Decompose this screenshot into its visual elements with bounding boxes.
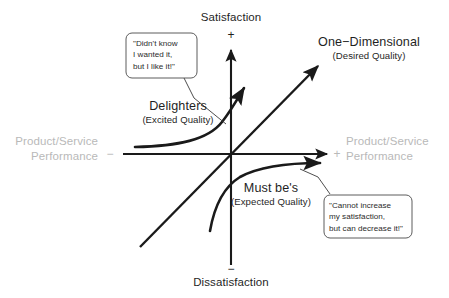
axis-label-performance-left-line1: Product/Service <box>15 135 98 147</box>
category-subtitle-delighters: (Excited Quality) <box>123 114 233 126</box>
one-dimensional-curve <box>140 66 318 247</box>
axis-sign-negative-horizontal: − <box>103 147 117 162</box>
axis-label-performance-left: Product/Service Performance <box>2 134 98 163</box>
category-name-must-bes: Must be's <box>212 180 330 196</box>
axis-label-performance-right-line1: Product/Service <box>346 135 429 147</box>
category-name-delighters: Delighters <box>123 98 233 114</box>
category-subtitle-one-dimensional: (Desired Quality) <box>296 50 442 62</box>
category-label-delighters: Delighters (Excited Quality) <box>123 98 233 126</box>
kano-model-diagram: Satisfaction + − Dissatisfaction Product… <box>0 0 449 298</box>
category-label-must-bes: Must be's (Expected Quality) <box>212 180 330 208</box>
callout-must-bes-line-1: "Cannot increase <box>329 200 409 211</box>
callout-text-delighters: "Didn't know I wanted it, but I like it!… <box>133 38 195 72</box>
callout-must-bes-line-2: my satisfaction, <box>329 211 409 222</box>
callout-text-must-bes: "Cannot increase my satisfaction, but ca… <box>329 200 409 234</box>
axis-sign-positive-horizontal: + <box>330 147 344 162</box>
axis-label-performance-right-line2: Performance <box>346 150 413 162</box>
callout-delighters-line-1: "Didn't know <box>133 38 195 49</box>
category-label-one-dimensional: One−Dimensional (Desired Quality) <box>296 34 442 62</box>
callout-delighters-line-3: but I like it!" <box>133 61 195 72</box>
axis-label-performance-left-line2: Performance <box>31 150 98 162</box>
axis-sign-positive-vertical: + <box>221 28 241 43</box>
callout-delighters-line-2: I wanted it, <box>133 49 195 60</box>
axis-label-performance-right: Product/Service Performance <box>346 134 446 163</box>
callout-must-bes-line-3: but can decrease it!" <box>329 223 409 234</box>
axis-label-dissatisfaction: Dissatisfaction <box>175 275 287 290</box>
category-subtitle-must-bes: (Expected Quality) <box>212 196 330 208</box>
category-name-one-dimensional: One−Dimensional <box>296 34 442 50</box>
axis-label-satisfaction: Satisfaction <box>181 10 281 25</box>
